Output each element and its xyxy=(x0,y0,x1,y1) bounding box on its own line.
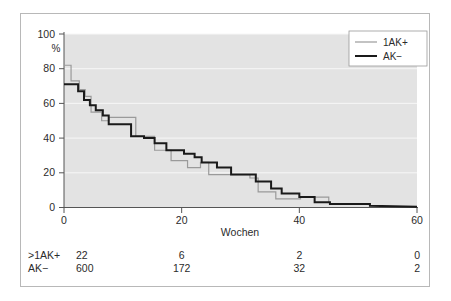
chart-legend: 1AK+AK− xyxy=(349,31,427,66)
x-axis-ticks xyxy=(64,208,417,214)
legend-label: 1AK+ xyxy=(383,37,408,48)
risk-cell: 2 xyxy=(296,249,302,261)
y-axis-ticks xyxy=(59,34,64,208)
x-axis-label: Wochen xyxy=(221,226,259,238)
risk-cell: 32 xyxy=(293,262,305,274)
x-tick-label: 60 xyxy=(411,214,423,226)
risk-cell: 22 xyxy=(76,249,88,261)
y-tick-label: 20 xyxy=(43,166,55,178)
y-tick-label: 60 xyxy=(43,97,55,109)
risk-cell: 172 xyxy=(173,262,191,274)
risk-row-label: AK− xyxy=(28,262,48,274)
y-tick-label: 0 xyxy=(49,201,55,213)
x-tick-label: 40 xyxy=(293,214,305,226)
risk-table: >1AK+22620AK−600172322 xyxy=(28,249,420,274)
y-tick-label: 80 xyxy=(43,62,55,74)
risk-cell: 2 xyxy=(414,262,420,274)
x-axis-tick-labels: 0204060 xyxy=(61,214,423,226)
risk-row-label: >1AK+ xyxy=(28,249,60,261)
y-axis-label: % xyxy=(52,43,61,54)
x-tick-label: 20 xyxy=(176,214,188,226)
risk-cell: 600 xyxy=(76,262,94,274)
risk-cell: 6 xyxy=(179,249,185,261)
x-tick-label: 0 xyxy=(61,214,67,226)
y-axis-tick-labels: 020406080100 xyxy=(37,28,55,214)
survival-chart: 020406080100 0204060 % Wochen 1AK+AK− >1… xyxy=(0,0,451,301)
figure-container: 020406080100 0204060 % Wochen 1AK+AK− >1… xyxy=(0,0,451,301)
legend-label: AK− xyxy=(383,51,402,62)
y-tick-label: 100 xyxy=(37,28,55,40)
risk-cell: 0 xyxy=(414,249,420,261)
y-tick-label: 40 xyxy=(43,132,55,144)
